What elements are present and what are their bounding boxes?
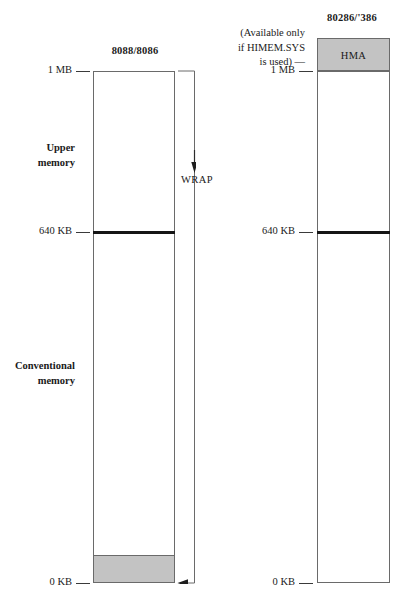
region-label-conventional-memory-line-1: Conventional [0, 358, 75, 373]
region-label-upper-memory-line-2: memory [0, 155, 75, 170]
wrap-label: WRAP [173, 174, 221, 185]
right-diagram-title: 80286/'386 [302, 11, 402, 24]
left-diagram-title: 8088/8086 [85, 44, 185, 57]
left-bottom-reserved-block [93, 555, 175, 583]
right-tick-label-1mb: 1 MB [243, 64, 295, 75]
diagram-canvas: 8088/8086 80286/'386 (Available only if … [0, 0, 408, 602]
himem-note-line-1: (Available only [208, 26, 305, 41]
left-tick-dash-1mb [76, 71, 90, 72]
right-memory-column [317, 71, 390, 583]
region-label-conventional-memory-line-2: memory [0, 373, 75, 388]
left-tick-dash-640kb [76, 232, 90, 233]
right-640kb-boundary-rule [317, 231, 390, 234]
region-label-upper-memory-line-1: Upper [0, 140, 75, 155]
himem-availability-note: (Available only if HIMEM.SYS is used) — [208, 26, 305, 70]
left-tick-label-1mb: 1 MB [20, 64, 72, 75]
right-tick-label-640kb: 640 KB [233, 225, 295, 236]
right-tick-dash-640kb [299, 232, 313, 233]
hma-block-label: HMA [318, 49, 389, 60]
region-label-upper-memory: Upper memory [0, 140, 75, 170]
left-640kb-boundary-rule [93, 231, 175, 234]
left-tick-dash-0kb [76, 583, 90, 584]
hma-block: HMA [317, 38, 390, 71]
himem-note-line-2: if HIMEM.SYS [208, 41, 305, 56]
right-tick-dash-1mb [299, 71, 313, 72]
left-memory-column [93, 71, 175, 583]
region-label-conventional-memory: Conventional memory [0, 358, 75, 388]
right-tick-dash-0kb [299, 583, 313, 584]
left-tick-label-640kb: 640 KB [10, 225, 72, 236]
right-tick-label-0kb: 0 KB [243, 576, 295, 587]
left-tick-label-0kb: 0 KB [20, 576, 72, 587]
wrap-bracket-icon [177, 70, 196, 584]
